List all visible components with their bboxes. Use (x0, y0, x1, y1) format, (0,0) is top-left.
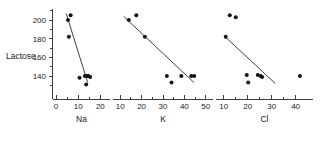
data-point (78, 76, 82, 80)
data-point (170, 81, 174, 85)
lactose-electrolyte-scatter-figure: 140160180200Lactose01020Na1020304050K102… (0, 0, 322, 142)
x-tick-label: 30 (159, 102, 168, 111)
x-axis-title: Cl (260, 114, 268, 124)
regression-line (226, 38, 275, 84)
sodium-panel: 01020Na (53, 13, 110, 124)
data-point (234, 15, 238, 19)
x-tick-label: 40 (180, 102, 189, 111)
x-tick-label: 40 (291, 102, 300, 111)
data-point (260, 75, 264, 79)
chloride-panel: 10203040Cl (216, 13, 313, 124)
y-tick-label: 140 (33, 72, 47, 81)
x-axis-title: Na (76, 114, 87, 124)
data-point (143, 35, 147, 39)
y-axis-title: Lactose (6, 51, 36, 61)
x-tick-label: 0 (54, 102, 59, 111)
plot-canvas: 140160180200Lactose01020Na1020304050K102… (0, 0, 322, 142)
data-point (127, 18, 131, 22)
potassium-panel: 1020304050K (113, 13, 213, 124)
data-point (179, 74, 183, 78)
data-point (88, 75, 92, 79)
data-point (69, 13, 73, 17)
x-tick-label: 10 (219, 102, 228, 111)
data-point (298, 74, 302, 78)
x-tick-label: 20 (137, 102, 146, 111)
x-axis-title: K (160, 114, 166, 124)
x-tick-label: 50 (201, 102, 210, 111)
y-tick-label: 200 (33, 16, 47, 25)
data-point (192, 74, 196, 78)
y-tick-label: 180 (33, 35, 47, 44)
y-axis: 140160180200Lactose (6, 9, 53, 99)
x-tick-label: 30 (267, 102, 276, 111)
data-point (245, 73, 249, 77)
data-point (134, 13, 138, 17)
data-point (246, 81, 250, 85)
data-point (84, 82, 88, 86)
data-point (66, 18, 70, 22)
regression-line (123, 16, 194, 82)
data-point (228, 13, 232, 17)
data-point (224, 35, 228, 39)
x-tick-label: 10 (116, 102, 125, 111)
data-point (67, 35, 71, 39)
data-point (165, 74, 169, 78)
regression-line (66, 13, 88, 82)
x-tick-label: 20 (96, 102, 105, 111)
x-tick-label: 10 (74, 102, 83, 111)
x-tick-label: 20 (243, 102, 252, 111)
